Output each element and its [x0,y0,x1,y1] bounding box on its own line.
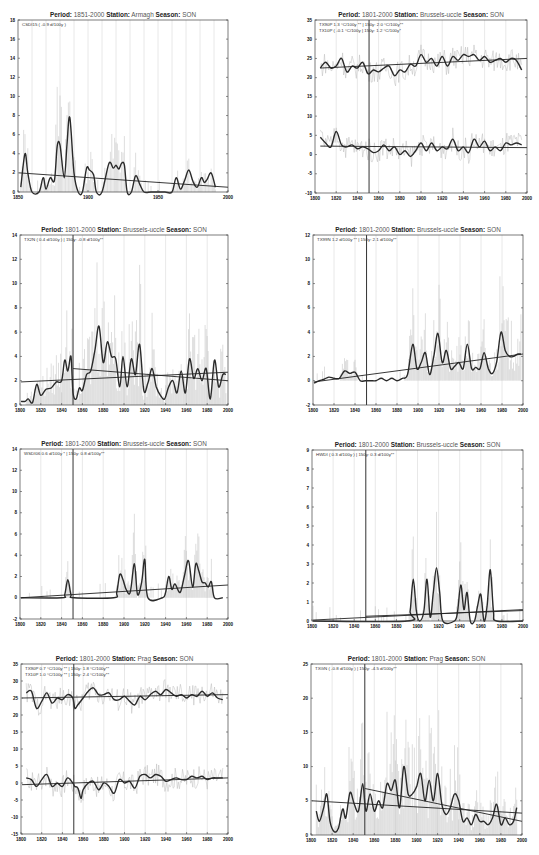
svg-text:1840: 1840 [349,624,360,629]
axes: 1800182018401860188019001920194019601980… [12,233,234,413]
svg-text:TX99N 1.2 d/100y ** | 150y:: TX99N 1.2 d/100y ** | 150y: 2.1 d/100y** [317,237,397,242]
svg-text:6: 6 [307,305,310,310]
svg-text:1880: 1880 [392,408,403,413]
svg-text:1820: 1820 [37,837,48,842]
svg-text:14: 14 [12,233,18,238]
svg-text:0: 0 [306,619,309,624]
svg-text:-2: -2 [306,403,311,408]
svg-text:7: 7 [306,486,309,491]
svg-text:1800: 1800 [308,408,319,413]
svg-text:15: 15 [13,730,19,735]
svg-text:-2: -2 [13,617,18,622]
svg-text:10: 10 [12,281,18,286]
svg-text:1940: 1940 [160,408,171,413]
svg-text:12: 12 [12,257,18,262]
svg-text:5: 5 [305,798,308,803]
svg-text:20: 20 [307,75,313,80]
svg-text:18: 18 [10,18,16,23]
svg-text:1840: 1840 [348,838,359,843]
svg-text:1860: 1860 [371,408,382,413]
svg-text:1920: 1920 [140,622,151,627]
svg-text:1940: 1940 [458,196,469,201]
svg-text:1860: 1860 [370,624,381,629]
chart-panel-p7: Period: 1801-2000 Station: Prag Season: … [0,630,270,855]
chart-panel-p8: Period: 1801-2000 Station: Prag Season: … [270,630,539,855]
svg-text:9: 9 [306,448,309,453]
axes: 1800182018401860188019001920194019601980… [12,447,234,627]
svg-text:0: 0 [309,152,312,157]
svg-text:2000: 2000 [223,408,234,413]
svg-text:35: 35 [307,18,313,23]
svg-text:1900: 1900 [411,838,422,843]
svg-text:1820: 1820 [36,408,47,413]
svg-text:1940: 1940 [455,408,466,413]
svg-text:2000: 2000 [518,408,529,413]
svg-text:20: 20 [303,696,309,701]
svg-text:1860: 1860 [369,838,380,843]
svg-text:1820: 1820 [329,408,340,413]
chart-panel-p3: Period: 1801-2000 Station: Brussels-uccl… [0,210,270,420]
svg-text:8: 8 [14,510,17,515]
svg-text:6: 6 [14,330,17,335]
smoothed-line [21,326,226,403]
chart-panel-p5: Period: 1801-2000 Station: Brussels-uccl… [0,420,270,630]
svg-text:1950: 1950 [153,195,164,200]
svg-text:1960: 1960 [476,408,487,413]
svg-text:1900: 1900 [412,624,423,629]
svg-text:TXGN ( -0.8 d/100y ) | 150y:: TXGN ( -0.8 d/100y ) | 150y: -4.5 d/100y… [315,666,397,671]
svg-text:20: 20 [13,713,19,718]
svg-text:2000: 2000 [522,196,533,201]
svg-text:1920: 1920 [434,408,445,413]
svg-text:1920: 1920 [140,837,151,842]
svg-text:-5: -5 [308,171,313,176]
svg-text:1800: 1800 [306,838,317,843]
svg-text:1900: 1900 [416,196,427,201]
raw-annual-series [313,512,523,621]
svg-text:1900: 1900 [119,408,130,413]
svg-text:1960: 1960 [181,408,192,413]
svg-text:1880: 1880 [99,837,110,842]
svg-text:1820: 1820 [331,196,342,201]
chart-svg: 1800182018401860188019001920194019601980… [0,420,270,630]
svg-text:2: 2 [12,170,15,175]
legend: TX99N 1.2 d/100y ** | 150y: 2.1 d/100y** [317,237,397,242]
svg-text:14: 14 [10,56,16,61]
smoothed-line [314,332,521,383]
svg-text:15: 15 [303,730,309,735]
svg-text:1860: 1860 [373,196,384,201]
chart-panel-p4: Period: 1801-2000 Station: Brussels-uccl… [270,210,539,420]
svg-text:10: 10 [13,747,19,752]
svg-text:2000: 2000 [223,195,234,200]
svg-text:4: 4 [307,330,310,335]
svg-text:2: 2 [307,354,310,359]
chart-panel-p2: Period: 1801-2000 Station: Brussels-uccl… [270,0,539,210]
legend: HWDI ( 0.3 d/100y ) | 150y: 0.3 d/100y** [316,452,395,457]
svg-text:1900: 1900 [119,622,130,627]
svg-text:12: 12 [10,75,16,80]
legend: TX2N ( 0.4 d/100y ) | 150y: -0.8 d/100y*… [24,237,104,242]
axes: 1800182018401860188019001920194019601980… [305,18,532,201]
svg-text:25: 25 [307,56,313,61]
svg-text:1960: 1960 [476,624,487,629]
svg-text:14: 14 [12,447,18,452]
svg-text:1800: 1800 [310,196,321,201]
svg-text:1800: 1800 [15,408,26,413]
chart-svg: 1800182018401860188019001920194019601980… [270,0,539,210]
svg-text:1820: 1820 [328,624,339,629]
svg-text:4: 4 [12,151,15,156]
svg-text:1880: 1880 [395,196,406,201]
svg-text:-10: -10 [11,815,18,820]
raw-annual-series [21,262,226,405]
svg-text:-15: -15 [11,832,18,837]
svg-text:1860: 1860 [77,622,88,627]
svg-text:TX90P 0.7 °C/100y ** | 150y:: TX90P 0.7 °C/100y ** | 150y: 1.8 °C/100y… [25,666,109,671]
svg-text:10: 10 [10,94,16,99]
svg-text:TX2N ( 0.4 d/100y ) | 150y:: TX2N ( 0.4 d/100y ) | 150y: -0.8 d/100y*… [24,237,104,242]
legend: TX90P 0.7 °C/100y ** | 150y: 1.8 °C/100y… [25,666,109,677]
svg-text:1920: 1920 [432,838,443,843]
svg-text:1900: 1900 [413,408,424,413]
svg-text:1960: 1960 [475,838,486,843]
svg-text:TX10P ( -0.1 °C/100y | 150y: TX10P ( -0.1 °C/100y | 150y: 1.2 °C/100y… [319,28,401,33]
svg-text:HWDI ( 0.3 d/100y ) | 150y:: HWDI ( 0.3 d/100y ) | 150y: 0.3 d/100y** [316,452,395,457]
svg-text:2: 2 [14,378,17,383]
